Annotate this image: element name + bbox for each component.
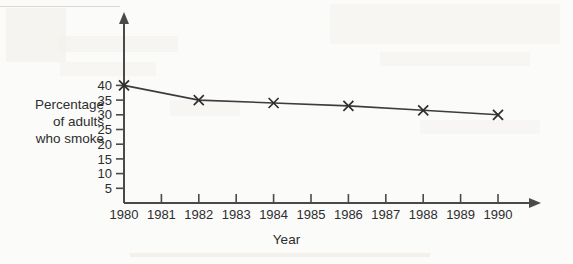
x-axis-title: Year	[0, 232, 573, 247]
data-point-markers	[119, 80, 503, 119]
series-line-smoking	[124, 85, 498, 114]
x-axis-ticks	[124, 194, 498, 203]
y-axis-title: Percentage of adults who smoke	[8, 96, 104, 147]
y-tick-label: 5	[76, 181, 112, 196]
y-axis-arrow-icon	[119, 12, 129, 24]
y-tick-label: 40	[76, 78, 112, 93]
y-axis-ticks	[116, 85, 124, 188]
y-axis-title-line: who smoke	[8, 130, 104, 147]
x-tick-label: 1990	[472, 207, 524, 222]
y-axis-title-line: of adults	[8, 113, 104, 130]
y-axis-title-line: Percentage	[8, 96, 104, 113]
x-axis-arrow-icon	[529, 198, 541, 208]
y-tick-label: 15	[76, 152, 112, 167]
chart-figure: 40 35 30 25 20 15 10 5 1980 1981 1982 19…	[0, 0, 573, 264]
y-tick-label: 10	[76, 166, 112, 181]
